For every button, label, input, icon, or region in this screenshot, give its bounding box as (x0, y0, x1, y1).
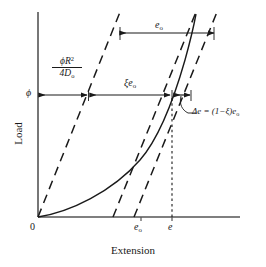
figure-container: Load Extension 0 eo e ϕ ϕR2 4Do eo ξeo Δ… (0, 0, 266, 267)
annotation-delta-e: Δe = (1−ξ)eo (192, 107, 239, 117)
fraction-numerator-main: ϕR (60, 56, 71, 66)
plot-canvas (0, 0, 266, 267)
annotation-delta-e-subscript: o (236, 111, 239, 117)
fraction-numerator: ϕR2 (44, 56, 90, 67)
xtick-label-e: e (168, 222, 172, 232)
annotation-xi-e0: ξeo (124, 78, 136, 90)
annotation-delta-e-main: Δe = (1−ξ)e (192, 106, 236, 116)
xtick-label-e0: eo (134, 222, 142, 234)
fraction-denominator-subscript: o (71, 72, 74, 79)
fraction-numerator-exponent: 2 (71, 55, 74, 62)
fraction-denominator: 4Do (44, 68, 90, 79)
x-axis-title: Extension (0, 245, 266, 256)
origin-tick-label: 0 (30, 222, 35, 232)
annotation-e0-top: eo (155, 20, 163, 32)
annotation-xi-e0-main: ξe (124, 77, 133, 88)
offset-line-through-e (113, 12, 196, 217)
caption-cutoff (0, 262, 266, 267)
fraction-denominator-main: 4D (60, 68, 72, 78)
annotation-xi-e0-subscript: o (133, 82, 136, 89)
annotation-e0-top-subscript: o (159, 24, 162, 31)
ytick-label-phi: ϕ (26, 88, 31, 98)
xtick-e0-subscript: o (138, 226, 141, 233)
tangent-line-origin (38, 12, 120, 217)
y-axis-title: Load (13, 104, 24, 164)
fraction-annotation: ϕR2 4Do (44, 56, 90, 80)
